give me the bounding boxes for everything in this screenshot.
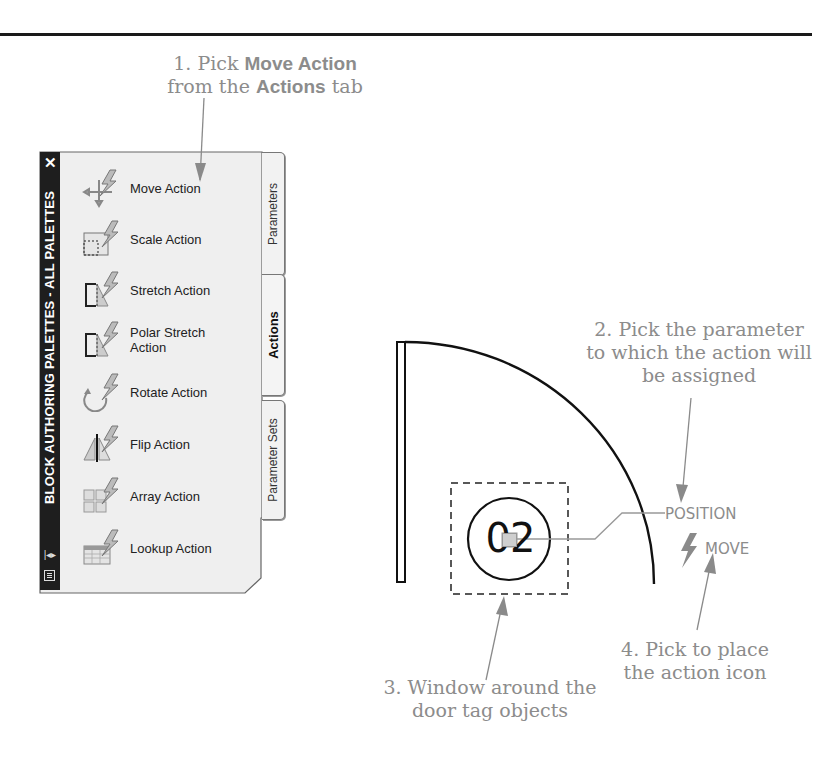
- palette-item-rotate-action[interactable]: Rotate Action: [80, 372, 260, 412]
- palette-title: BLOCK AUTHORING PALETTES - ALL PALETTES: [40, 174, 60, 504]
- palette-item-scale-action[interactable]: Scale Action: [80, 219, 260, 259]
- tab-parameter-sets[interactable]: Parameter Sets: [262, 400, 285, 520]
- move-action-icon: [80, 168, 124, 208]
- arrowhead-3: [496, 596, 508, 616]
- array-action-icon: [80, 476, 124, 516]
- palette-item-lookup-action[interactable]: Lookup Action: [80, 528, 260, 568]
- leader-arrow-4: [697, 562, 711, 630]
- arrowhead-2: [676, 484, 688, 503]
- move-action-bolt-icon[interactable]: [681, 533, 697, 568]
- palette-item-flip-action[interactable]: Flip Action: [80, 424, 260, 464]
- palette-item-array-action[interactable]: Array Action: [80, 476, 260, 516]
- properties-menu-icon[interactable]: [44, 570, 55, 581]
- callout-step-3: 3. Window around the door tag objects: [375, 676, 605, 722]
- callout-step-2: 2. Pick the parameter to which the actio…: [582, 318, 816, 387]
- parameter-label[interactable]: POSITION: [665, 505, 736, 523]
- rotate-action-icon: [80, 372, 124, 412]
- top-rule: [0, 33, 812, 36]
- stretch-action-icon: [80, 270, 124, 310]
- callout-step-1: 1. Pick Move Action from the Actions tab: [150, 52, 380, 98]
- tab-actions[interactable]: Actions: [262, 274, 285, 396]
- polar-stretch-action-icon: [80, 320, 124, 360]
- palette-item-stretch-action[interactable]: Stretch Action: [80, 270, 260, 310]
- door-leaf: [397, 342, 405, 582]
- scale-action-icon: [80, 219, 124, 259]
- leader-arrow-3: [486, 605, 502, 680]
- position-grip-overlay: [502, 533, 517, 547]
- block-authoring-palette: ✕ BLOCK AUTHORING PALETTES - ALL PALETTE…: [30, 150, 292, 595]
- flip-action-icon: [80, 424, 124, 464]
- palette-item-move-action[interactable]: Move Action: [80, 168, 260, 208]
- action-label[interactable]: MOVE: [705, 540, 749, 558]
- palette-titlebar[interactable]: ✕ BLOCK AUTHORING PALETTES - ALL PALETTE…: [40, 152, 60, 590]
- palette-item-polar-stretch-action[interactable]: Polar StretchAction: [80, 320, 260, 360]
- autohide-icon[interactable]: |◂▸: [43, 549, 57, 561]
- tab-parameters[interactable]: Parameters: [262, 152, 285, 276]
- lookup-action-icon: [80, 528, 124, 568]
- close-icon[interactable]: ✕: [40, 154, 60, 172]
- leader-arrow-2: [682, 398, 691, 498]
- callout-step-4: 4. Pick to place the action icon: [610, 638, 780, 684]
